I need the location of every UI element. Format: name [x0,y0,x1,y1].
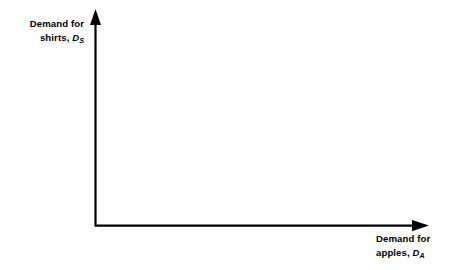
x-axis-arrowhead [412,220,429,231]
x-axis-variable: D [413,247,420,258]
x-axis-label-text: apples, [376,247,410,258]
x-axis-label-line1: Demand for [376,232,430,246]
x-axis-label: Demand for apples, DA [376,232,430,262]
y-axis-label-text: shirts, [40,32,70,43]
y-axis-label-line1: Demand for [0,17,84,31]
y-axis-label-line2: shirts, DS [0,31,84,47]
y-axis-subscript: S [79,35,84,44]
y-axis-label: Demand for shirts, DS [0,17,84,47]
figure-canvas: Demand for shirts, DS Demand for apples,… [0,0,460,270]
y-axis-arrowhead [90,9,101,25]
x-axis-label-line2: apples, DA [376,246,430,262]
x-axis-subscript: A [420,250,425,259]
